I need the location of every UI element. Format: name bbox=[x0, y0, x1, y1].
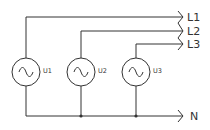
junction-dot bbox=[79, 114, 82, 117]
source-u2: U2 bbox=[67, 58, 107, 86]
wire-l3 bbox=[136, 44, 183, 58]
source-u3: U3 bbox=[122, 58, 162, 86]
source-label: U1 bbox=[43, 67, 52, 75]
output-label-l3: L3 bbox=[187, 38, 200, 51]
output-label-n: N bbox=[190, 110, 198, 123]
source-label: U3 bbox=[153, 67, 162, 75]
output-label-l1: L1 bbox=[187, 11, 200, 24]
source-u1: U1 bbox=[12, 58, 52, 86]
three-phase-schematic: U1 U2 U3 L1 L2 L3 N bbox=[0, 0, 210, 130]
junction-dot bbox=[134, 114, 137, 117]
source-label: U2 bbox=[98, 67, 107, 75]
output-label-l2: L2 bbox=[187, 25, 200, 38]
wire-l1 bbox=[26, 17, 183, 58]
